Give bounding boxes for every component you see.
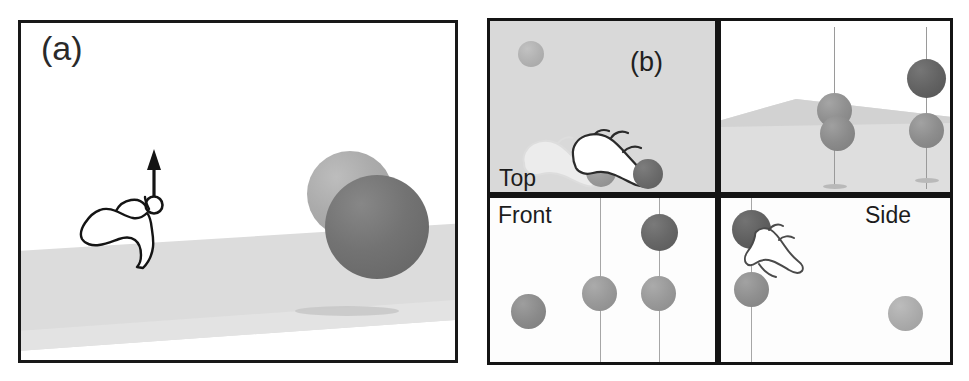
view-label-top: Top — [499, 167, 536, 190]
sphere-dark-active[interactable] — [325, 175, 429, 279]
view-label-side: Side — [865, 204, 911, 227]
view-label-front: Front — [498, 204, 552, 227]
figure-container: (a) — [0, 0, 969, 381]
up-arrow-icon — [147, 149, 161, 201]
dropline-right-shadow — [915, 178, 939, 183]
dropline-left-shadow — [823, 184, 847, 189]
sphere-light-right — [888, 296, 923, 331]
sphere-gray-far — [518, 41, 544, 67]
panel-a-tag: (a) — [41, 31, 83, 65]
sphere-dark-target[interactable] — [633, 159, 663, 189]
sphere-gray-grounded — [909, 113, 944, 148]
sphere-dark-raised[interactable] — [907, 59, 946, 98]
sphere-gray-right — [641, 276, 676, 311]
cell-top-view: Top (b) — [487, 18, 718, 195]
pointing-hand-cursor[interactable] — [743, 216, 829, 302]
sphere-mid-lower — [820, 116, 855, 151]
pointing-hand-with-up-arrow-cursor[interactable] — [69, 143, 199, 273]
dropline-right — [926, 27, 927, 189]
sphere-dark-right-top[interactable] — [641, 214, 678, 251]
sphere-gray-left — [511, 294, 546, 329]
panel-b-tag: (b) — [630, 49, 663, 76]
multi-view-grid: Top (b) Fron — [487, 18, 953, 365]
sphere-gray-middle — [582, 276, 617, 311]
panel-a-perspective-overview: (a) — [18, 20, 458, 363]
cell-perspective-view — [718, 18, 953, 195]
cell-front-view: Front — [487, 195, 718, 365]
cell-side-view: Side — [718, 195, 953, 365]
